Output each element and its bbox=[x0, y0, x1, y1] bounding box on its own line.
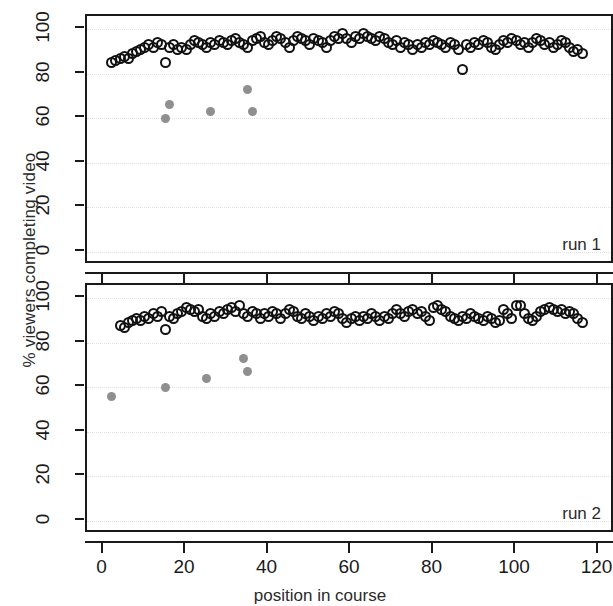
scatter-figure: % viewers completing video position in c… bbox=[0, 0, 613, 606]
y-tick-mark bbox=[75, 429, 84, 431]
x-tick-label: 40 bbox=[237, 556, 297, 578]
gridline bbox=[87, 476, 611, 478]
data-point bbox=[577, 317, 588, 328]
data-point bbox=[202, 374, 211, 383]
x-tick-mark bbox=[431, 274, 433, 284]
x-tick-mark bbox=[348, 274, 350, 284]
x-axis-title: position in course bbox=[85, 586, 555, 606]
y-tick-mark bbox=[75, 295, 84, 297]
y-tick-mark bbox=[75, 71, 84, 73]
data-point bbox=[160, 324, 171, 335]
gridline bbox=[87, 432, 611, 434]
y-tick-mark bbox=[75, 204, 84, 206]
data-point bbox=[206, 107, 215, 116]
gridline bbox=[87, 163, 611, 165]
x-tick-mark bbox=[431, 543, 433, 553]
data-point bbox=[577, 48, 588, 59]
gridline bbox=[87, 29, 611, 31]
gridline bbox=[87, 252, 611, 254]
x-tick-mark bbox=[101, 274, 103, 284]
x-tick-label: 20 bbox=[154, 556, 214, 578]
data-point bbox=[161, 114, 170, 123]
x-tick-label: 0 bbox=[72, 556, 132, 578]
x-tick-mark bbox=[101, 543, 103, 553]
gridline bbox=[87, 74, 611, 76]
x-tick-label: 80 bbox=[402, 556, 462, 578]
x-tick-mark bbox=[266, 274, 268, 284]
y-tick-mark bbox=[75, 473, 84, 475]
data-point bbox=[239, 354, 248, 363]
data-point bbox=[243, 367, 252, 376]
gridline bbox=[87, 207, 611, 209]
y-tick-mark bbox=[75, 384, 84, 386]
y-tick-label: 100 bbox=[32, 268, 54, 324]
y-tick-label: 100 bbox=[32, 0, 54, 55]
x-tick-mark bbox=[348, 543, 350, 553]
y-tick-mark bbox=[75, 249, 84, 251]
x-tick-mark bbox=[513, 543, 515, 553]
gridline bbox=[87, 343, 611, 345]
gridline bbox=[87, 298, 611, 300]
gridline bbox=[87, 521, 611, 523]
x-tick-mark bbox=[513, 274, 515, 284]
y-tick-mark bbox=[75, 518, 84, 520]
y-tick-mark bbox=[75, 26, 84, 28]
x-tick-mark bbox=[266, 543, 268, 553]
data-point bbox=[160, 57, 171, 68]
x-tick-mark bbox=[183, 274, 185, 284]
data-point bbox=[424, 315, 435, 326]
plot-panel-run-1: run 1 bbox=[85, 14, 613, 263]
data-point bbox=[161, 383, 170, 392]
x-tick-mark bbox=[596, 543, 598, 553]
data-point bbox=[165, 100, 174, 109]
data-point bbox=[243, 85, 252, 94]
x-tick-label: 100 bbox=[484, 556, 544, 578]
y-tick-mark bbox=[75, 340, 84, 342]
x-tick-mark bbox=[596, 274, 598, 284]
data-point bbox=[506, 313, 517, 324]
x-tick-label: 120 bbox=[567, 556, 613, 578]
x-tick-label: 60 bbox=[319, 556, 379, 578]
y-tick-mark bbox=[75, 160, 84, 162]
x-tick-mark bbox=[183, 543, 185, 553]
data-point bbox=[457, 64, 468, 75]
data-point bbox=[248, 107, 257, 116]
data-point bbox=[107, 392, 116, 401]
plot-panel-run-2: run 2 bbox=[85, 283, 613, 532]
y-tick-mark bbox=[75, 115, 84, 117]
